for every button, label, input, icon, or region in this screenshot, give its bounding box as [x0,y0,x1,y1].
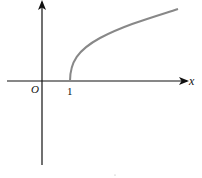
sqrt-curve [70,9,178,81]
speck [114,174,115,175]
x-axis-label: x [189,74,194,89]
x-tick-1: 1 [67,85,73,97]
origin-label: O [31,83,39,95]
